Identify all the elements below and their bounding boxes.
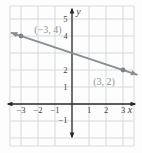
x-tick-label: 3 — [121, 105, 125, 115]
data-point — [19, 34, 24, 39]
graph-container: −3−2−11235421−1xy(−3, 4)(3, 2) — [0, 0, 142, 153]
y-tick-label: 1 — [63, 82, 67, 92]
x-tick-label: 1 — [87, 105, 91, 115]
x-tick-label: −3 — [16, 105, 25, 115]
point-label: (−3, 4) — [34, 24, 61, 36]
x-tick-label: −1 — [50, 105, 59, 115]
y-axis-label: y — [75, 6, 81, 17]
x-tick-label: 2 — [104, 105, 108, 115]
y-tick-label: 2 — [63, 65, 67, 75]
coordinate-plane: −3−2−11235421−1xy(−3, 4)(3, 2) — [0, 0, 142, 153]
y-tick-label: 5 — [63, 14, 67, 24]
x-axis-label: x — [127, 104, 133, 115]
x-tick-label: −2 — [33, 105, 42, 115]
data-point — [121, 68, 126, 73]
point-label: (3, 2) — [93, 76, 115, 88]
y-tick-label: −1 — [58, 115, 67, 125]
y-tick-label: 4 — [64, 32, 68, 41]
